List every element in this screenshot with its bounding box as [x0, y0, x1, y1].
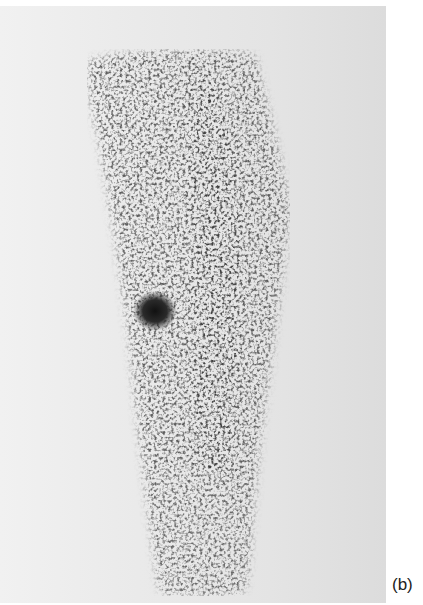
focal-hotspot [133, 291, 177, 331]
panel-label: (b) [392, 575, 413, 595]
speckled-limb-shape [0, 6, 386, 603]
scintigraphy-image [0, 6, 386, 603]
